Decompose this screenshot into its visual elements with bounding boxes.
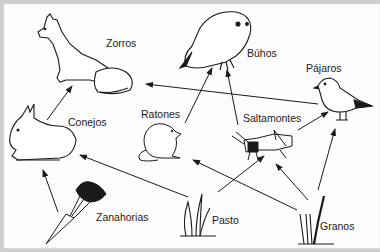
fox-icon xyxy=(38,14,132,94)
arrow-granos-ratones xyxy=(193,160,297,210)
food-web-diagram xyxy=(0,0,380,252)
grass-icon xyxy=(180,194,216,236)
label-zorros: Zorros xyxy=(106,37,136,49)
label-saltamontes: Saltamontes xyxy=(243,112,301,124)
arrow-saltamontes-pajaros xyxy=(298,112,328,130)
arrow-pasto-saltamontes xyxy=(218,156,264,192)
grasshopper-icon xyxy=(232,130,292,160)
arrow-conejos-zorros xyxy=(47,86,72,120)
arrow-granos-pajaros xyxy=(318,129,335,190)
label-pasto: Pasto xyxy=(212,214,239,226)
arrow-ratones-buhos xyxy=(185,68,212,123)
rabbit-icon xyxy=(10,104,76,160)
label-ratones: Ratones xyxy=(141,108,180,120)
label-granos: Granos xyxy=(320,220,354,232)
bird-icon xyxy=(314,78,372,120)
label-pajaros: Pájaros xyxy=(306,62,342,74)
arrow-granos-saltamontes xyxy=(276,164,308,200)
label-conejos: Conejos xyxy=(68,116,107,128)
arrow-zanahorias-conejos xyxy=(43,170,58,212)
label-zanahorias: Zanahorias xyxy=(96,211,149,223)
owl-icon xyxy=(180,12,251,70)
label-buhos: Búhos xyxy=(247,47,277,59)
arrow-saltamontes-buhos xyxy=(227,70,238,125)
mouse-icon xyxy=(139,124,181,161)
